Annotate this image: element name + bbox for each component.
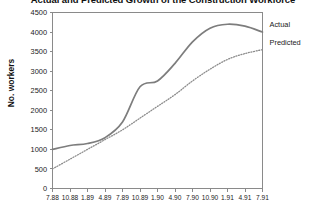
y-tick-label: 4500	[31, 8, 47, 17]
chart-figure: Actual and Predicted Growth of the Const…	[0, 0, 326, 211]
x-tick-label: 7.90	[186, 194, 199, 201]
y-axis-ticks: 050010001500200025003000350040004500	[31, 8, 53, 193]
legend-label-actual: Actual	[270, 20, 291, 29]
y-tick-label: 3500	[31, 47, 47, 56]
plot-area: 050010001500200025003000350040004500 7.8…	[0, 0, 326, 211]
x-tick-label: 10.89	[132, 194, 149, 201]
y-tick-label: 3000	[31, 67, 47, 76]
series-line-predicted	[53, 50, 263, 169]
x-tick-label: 10.90	[202, 194, 219, 201]
y-tick-label: 4000	[31, 28, 47, 37]
axis-frame	[53, 13, 263, 189]
y-tick-label: 0	[43, 184, 47, 193]
x-tick-label: 10.88	[62, 194, 79, 201]
x-tick-label: 1.89	[81, 194, 94, 201]
x-tick-label: 1.91	[221, 194, 234, 201]
legend-label-predicted: Predicted	[270, 38, 301, 47]
x-tick-label: 1.90	[151, 194, 164, 201]
x-tick-label: 7.89	[116, 194, 129, 201]
series-line-actual	[53, 24, 263, 149]
x-axis-ticks: 7.8810.881.894.897.8910.891.904.907.9010…	[46, 189, 269, 202]
x-tick-label: 4.89	[99, 194, 112, 201]
x-tick-label: 4.90	[169, 194, 182, 201]
y-tick-label: 2000	[31, 106, 47, 115]
y-tick-label: 1000	[31, 145, 47, 154]
x-tick-label: 4.91	[239, 194, 252, 201]
y-tick-label: 1500	[31, 125, 47, 134]
y-tick-label: 500	[35, 165, 47, 174]
x-tick-label: 7.91	[256, 194, 269, 201]
y-tick-label: 2500	[31, 86, 47, 95]
x-tick-label: 7.88	[46, 194, 59, 201]
